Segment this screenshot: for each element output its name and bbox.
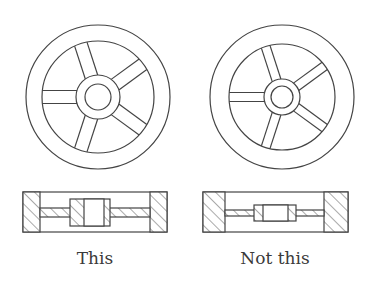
spoke-edge xyxy=(261,112,272,146)
spoke-edge xyxy=(261,48,272,82)
spoke-edge xyxy=(75,46,86,79)
spoke-edge xyxy=(293,62,322,83)
left-cross-section xyxy=(23,192,167,232)
right-cross-section xyxy=(203,192,348,232)
spoke-edge xyxy=(119,104,147,124)
spoke-edge xyxy=(75,115,86,148)
spoke-edge xyxy=(111,59,139,79)
spoke-edge xyxy=(299,104,328,125)
caption-this: This xyxy=(20,248,170,268)
diagram-canvas xyxy=(0,0,371,287)
left-wheel-hub-circle xyxy=(76,75,120,119)
spoke-edge xyxy=(299,70,328,91)
spoke-edge xyxy=(87,42,98,75)
spoke-edge xyxy=(293,111,322,132)
right-wheel-hub-circle xyxy=(264,79,300,115)
caption-not-this: Not this xyxy=(200,248,350,268)
spoke-edge xyxy=(111,115,139,135)
spoke-edge xyxy=(270,115,281,149)
left-wheel-front-view xyxy=(26,25,170,169)
spoke-edge xyxy=(270,45,281,79)
spoke-edge xyxy=(119,70,147,90)
spoke-edge xyxy=(87,119,98,152)
right-wheel-front-view xyxy=(210,25,354,169)
